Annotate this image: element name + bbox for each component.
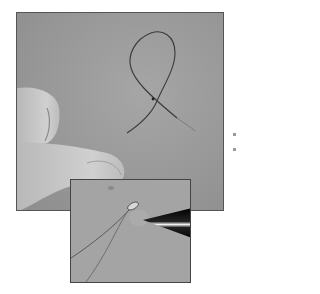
- wire-junction: [152, 98, 155, 101]
- speck: [108, 186, 114, 190]
- inset-background: [71, 180, 191, 283]
- wire-tip-closeup: [71, 180, 191, 283]
- inset-photo: [70, 179, 191, 283]
- page-mark: [233, 133, 236, 136]
- page-mark: [233, 148, 236, 151]
- glow: [129, 210, 149, 226]
